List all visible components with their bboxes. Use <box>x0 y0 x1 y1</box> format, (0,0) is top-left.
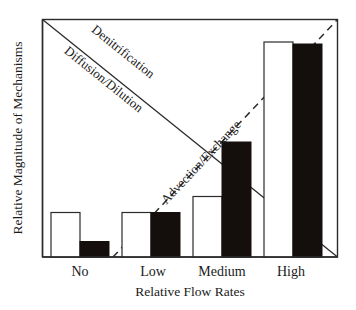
x-tick-label-high: High <box>277 264 305 279</box>
chart-figure: Denitrification Diffusion/Dilution Advec… <box>0 0 356 310</box>
chart-canvas: Denitrification Diffusion/Dilution Advec… <box>0 0 356 310</box>
bar-filled-medium <box>222 142 251 257</box>
y-axis-title: Relative Magnitude of Mechanisms <box>10 41 25 234</box>
x-tick-label-medium: Medium <box>198 264 246 279</box>
bar-open-high <box>264 42 293 257</box>
x-tick-label-no: No <box>71 264 88 279</box>
bar-open-low <box>122 213 151 258</box>
bar-open-no <box>51 213 80 258</box>
bar-filled-high <box>293 44 322 257</box>
x-axis-title: Relative Flow Rates <box>135 284 244 299</box>
x-tick-label-low: Low <box>140 264 167 279</box>
bar-open-medium <box>193 197 222 258</box>
bar-filled-no <box>80 242 109 258</box>
bar-filled-low <box>151 213 180 258</box>
